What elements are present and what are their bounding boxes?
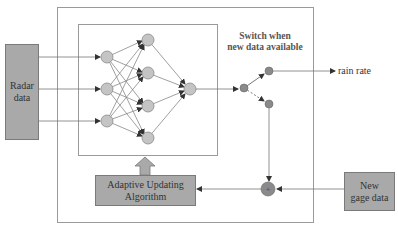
adaptive-updating-block: Adaptive UpdatingAlgorithm [95, 175, 196, 206]
gage-label-line2: gage data [350, 192, 388, 203]
new-gage-data-block: Newgage data [344, 172, 395, 211]
adaptive-label-line1: Adaptive Updating [107, 179, 183, 190]
output-node [184, 83, 196, 95]
diagram-canvas: + [0, 0, 398, 226]
switch-label: Switch when new data available [222, 31, 308, 53]
switch-upper-node [265, 67, 273, 75]
hidden-layer-nodes [142, 34, 154, 144]
summation-symbol: + [266, 185, 271, 194]
switch-node [240, 84, 248, 92]
update-arrow-icon [135, 157, 155, 175]
gage-label-line1: New [360, 180, 379, 191]
hidden-output-connections [148, 40, 185, 138]
radar-input-arrows [39, 57, 100, 121]
switch-label-line2: new data available [227, 42, 302, 52]
radar-data-block: Radardata [5, 44, 39, 140]
switch-lower-node [265, 100, 273, 108]
radar-label-line2: data [14, 92, 31, 103]
rain-rate-label: rain rate [338, 65, 371, 77]
radar-label-line1: Radar [10, 80, 34, 91]
adaptive-label-line2: Algorithm [125, 191, 167, 202]
switch-label-line1: Switch when [239, 31, 290, 41]
